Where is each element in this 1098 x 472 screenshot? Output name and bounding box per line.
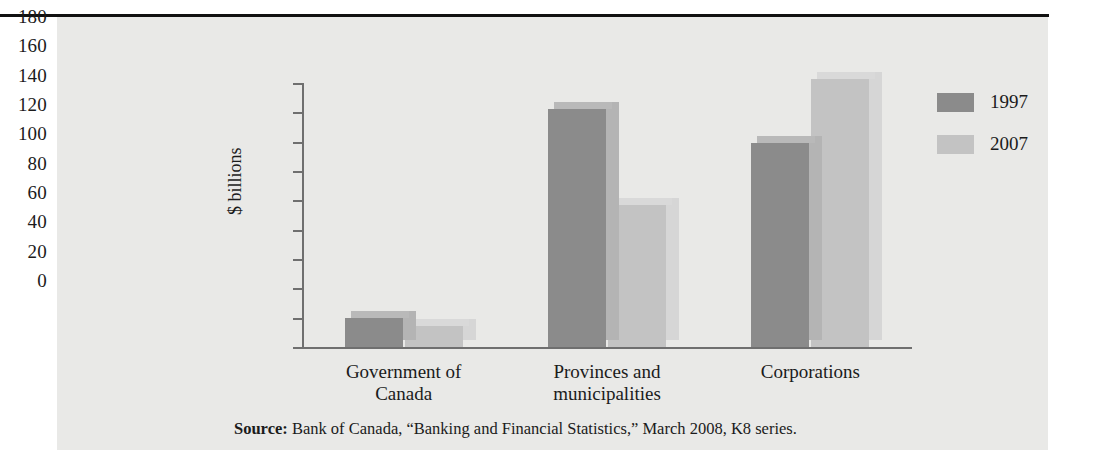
y-axis-tick xyxy=(293,347,302,349)
bar-group xyxy=(345,83,463,347)
bar-side-face xyxy=(869,72,882,340)
y-axis-tick-label: 180 xyxy=(18,6,47,28)
y-axis-tick xyxy=(293,259,302,261)
legend-swatch xyxy=(937,135,974,154)
y-axis-tick xyxy=(293,288,302,290)
y-axis-tick-label: 40 xyxy=(28,211,47,233)
bar-top-face xyxy=(554,102,612,109)
bar-group xyxy=(751,83,869,347)
y-axis-tick-label: 20 xyxy=(28,241,47,263)
bar-top-face xyxy=(614,198,672,205)
bar-1997 xyxy=(345,318,403,347)
bar-top-face xyxy=(351,311,409,318)
y-axis-tick xyxy=(293,112,302,114)
bar-top-face xyxy=(817,72,875,79)
category-label: Provinces andmunicipalities xyxy=(505,361,708,406)
y-axis-tick-label: 140 xyxy=(18,65,47,87)
y-axis-tick-label: 60 xyxy=(28,182,47,204)
category-label: Government ofCanada xyxy=(302,361,505,406)
y-axis-tick-label: 80 xyxy=(28,153,47,175)
bar-side-face xyxy=(809,136,822,340)
plot-area: Government ofCanadaProvinces andmunicipa… xyxy=(302,83,912,347)
y-axis-line xyxy=(302,83,304,347)
y-axis-tick-label: 160 xyxy=(18,35,47,57)
bar-1997 xyxy=(751,143,809,347)
bar-front-face xyxy=(345,318,403,347)
chart-legend: 19972007 xyxy=(937,81,1087,165)
bar-1997 xyxy=(548,109,606,347)
figure-panel: $ billions 180160140120100806040200 Gove… xyxy=(57,17,1048,450)
bar-top-face xyxy=(757,136,815,143)
category-label-line: Government of xyxy=(302,361,505,383)
y-axis-tick xyxy=(293,171,302,173)
bar-front-face xyxy=(548,109,606,347)
y-axis-tick xyxy=(293,83,302,85)
x-axis-line xyxy=(302,347,912,349)
source-note: Source: Bank of Canada, “Banking and Fin… xyxy=(234,419,797,439)
figure-root: $ billions 180160140120100806040200 Gove… xyxy=(0,0,1098,472)
bar-front-face xyxy=(751,143,809,347)
y-axis-tick xyxy=(293,230,302,232)
legend-swatch xyxy=(937,93,974,112)
legend-item-1997: 1997 xyxy=(937,81,1087,123)
y-axis-tick xyxy=(293,142,302,144)
y-axis-tick-label: 100 xyxy=(18,123,47,145)
bar-top-face xyxy=(411,319,469,326)
category-label-line: Corporations xyxy=(709,361,912,383)
y-axis-tick-label: 120 xyxy=(18,94,47,116)
bar-side-face xyxy=(606,102,619,340)
source-note-text: Bank of Canada, “Banking and Financial S… xyxy=(288,419,797,438)
category-label: Corporations xyxy=(709,361,912,383)
legend-label: 1997 xyxy=(990,91,1028,113)
y-axis-tick-labels: 180160140120100806040200 xyxy=(0,17,47,281)
y-axis-tick xyxy=(293,318,302,320)
category-label-line: municipalities xyxy=(505,383,708,405)
bar-group xyxy=(548,83,666,347)
legend-item-2007: 2007 xyxy=(937,123,1087,165)
category-label-line: Canada xyxy=(302,383,505,405)
bar-side-face xyxy=(666,198,679,340)
y-axis-tick-label: 0 xyxy=(37,270,47,292)
y-axis-title: $ billions xyxy=(225,147,246,215)
y-axis-tick xyxy=(293,200,302,202)
category-label-line: Provinces and xyxy=(505,361,708,383)
legend-label: 2007 xyxy=(990,133,1028,155)
source-note-label: Source: xyxy=(234,419,288,438)
